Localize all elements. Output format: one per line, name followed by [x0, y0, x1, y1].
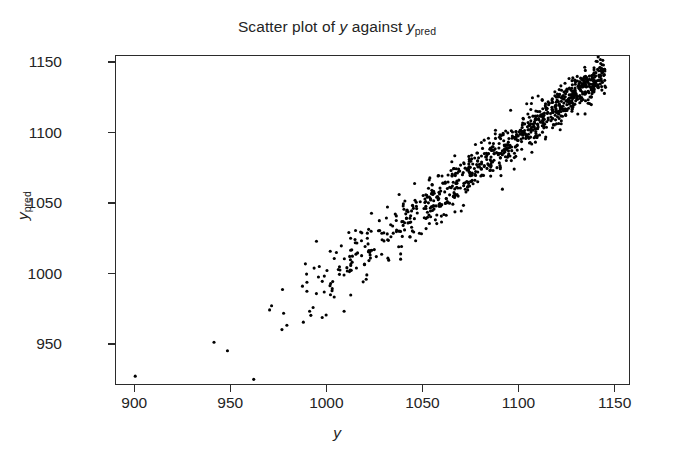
- x-tick-1150: [614, 385, 615, 392]
- y-tick-label-1000: 1000: [28, 265, 62, 283]
- y-tick-1050: [108, 202, 115, 203]
- x-tick-label-950: 950: [217, 394, 243, 412]
- x-tick-1000: [326, 385, 327, 392]
- y-tick-label-1100: 1100: [29, 124, 62, 142]
- x-tick-1050: [422, 385, 423, 392]
- y-tick-label-950: 950: [36, 335, 62, 353]
- y-tick-label-1150: 1150: [29, 53, 62, 71]
- y-tick-950: [108, 343, 115, 344]
- scatter-plot-figure: Scatter plot of y against ypred 90095010…: [0, 0, 674, 468]
- x-tick-label-900: 900: [121, 394, 147, 412]
- title-middle: against: [347, 18, 407, 35]
- x-axis-title-label: y: [333, 424, 341, 441]
- page-title: Scatter plot of y against ypred: [0, 18, 674, 36]
- y-tick-1100: [108, 132, 115, 133]
- title-prefix: Scatter plot of: [238, 18, 340, 35]
- x-tick-950: [230, 385, 231, 392]
- y-axis-title-subscript: pred: [21, 191, 33, 212]
- scatter-points-layer: [116, 56, 630, 385]
- x-tick-label-1000: 1000: [309, 394, 343, 412]
- plot-area: [115, 55, 630, 385]
- x-tick-label-1050: 1050: [405, 394, 439, 412]
- title-variable-ypred: y: [407, 18, 415, 35]
- x-tick-label-1150: 1150: [598, 394, 631, 412]
- x-tick-label-1100: 1100: [502, 394, 535, 412]
- title-subscript-pred: pred: [415, 25, 436, 37]
- y-axis-title: ypred: [14, 191, 32, 220]
- y-axis-title-base: y: [14, 212, 31, 220]
- x-tick-900: [134, 385, 135, 392]
- x-tick-1100: [518, 385, 519, 392]
- x-axis-title: y: [0, 424, 674, 442]
- y-tick-1150: [108, 61, 115, 62]
- y-tick-1000: [108, 273, 115, 274]
